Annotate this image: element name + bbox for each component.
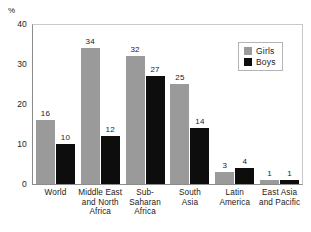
bar-group: 2514 [168, 24, 213, 184]
bar-boys: 4 [235, 168, 254, 184]
y-tick-label: 30 [0, 59, 27, 69]
y-tick-label: 0 [0, 179, 27, 189]
bar-boys: 12 [101, 136, 120, 184]
bar-group: 1610 [33, 24, 78, 184]
bar-value-label: 34 [86, 38, 95, 46]
bar-boys: 10 [56, 144, 75, 184]
legend-label-boys: Boys [256, 58, 276, 67]
bar-value-label: 10 [61, 134, 70, 142]
bar-value-label: 14 [195, 118, 204, 126]
legend-swatch-boys-icon [244, 58, 252, 66]
legend-label-girls: Girls [256, 47, 274, 56]
bar-value-label: 32 [130, 46, 139, 54]
bar-girls: 3 [215, 172, 234, 184]
bar-value-label: 1 [287, 170, 292, 178]
bar-group: 3412 [78, 24, 123, 184]
bar-value-label: 3 [222, 162, 227, 170]
chart-legend: Girls Boys [238, 42, 283, 71]
bar-girls: 34 [81, 48, 100, 184]
y-axis-title: % [8, 6, 15, 15]
bar-chart: % 010203040 16103412322725143411 Girls B… [0, 0, 311, 232]
bar-boys: 27 [146, 76, 165, 184]
legend-item-boys: Boys [244, 58, 276, 67]
bar-group: 3227 [123, 24, 168, 184]
bar-boys: 14 [190, 128, 209, 184]
bar-girls: 1 [260, 180, 279, 184]
bar-value-label: 27 [150, 66, 159, 74]
y-tick-label: 10 [0, 139, 27, 149]
y-tick-label: 20 [0, 99, 27, 109]
bar-value-label: 25 [175, 74, 184, 82]
y-tick-label: 40 [0, 19, 27, 29]
bar-girls: 32 [126, 56, 145, 184]
x-axis-category-label: East Asiaand Pacific [251, 188, 308, 207]
legend-item-girls: Girls [244, 47, 276, 56]
bar-value-label: 4 [242, 158, 247, 166]
legend-swatch-girls-icon [244, 47, 252, 55]
bar-girls: 25 [170, 84, 189, 184]
bar-value-label: 16 [41, 110, 50, 118]
bar-value-label: 1 [267, 170, 272, 178]
bar-girls: 16 [36, 120, 55, 184]
bar-boys: 1 [280, 180, 299, 184]
bar-value-label: 12 [106, 126, 115, 134]
